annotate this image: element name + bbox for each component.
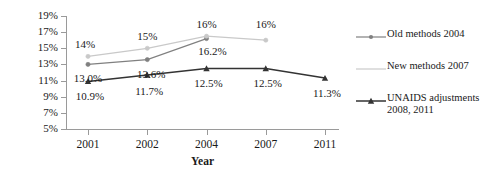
legend-label: New methods 2007: [387, 60, 469, 72]
x-axis-title: Year: [66, 155, 339, 167]
y-tick-label: 11%: [12, 75, 58, 86]
x-tick-label: 2011: [295, 138, 355, 150]
x-tick: [147, 130, 148, 135]
legend-marker-icon: [356, 93, 386, 105]
y-tick-label: 5%: [12, 123, 58, 134]
y-tick-label: 17%: [12, 26, 58, 37]
unaids-label-2007: 12.5%: [238, 77, 298, 89]
legend-marker-icon: [356, 29, 386, 41]
y-tick-label: 9%: [12, 91, 58, 102]
x-tick: [88, 130, 89, 135]
old-methods-label-2002: 13.6%: [121, 68, 181, 80]
x-tick-label: 2007: [236, 138, 296, 150]
legend-marker-icon: [356, 61, 386, 73]
legend-item-0[interactable]: Old methods 2004: [356, 28, 465, 41]
x-tick-label: 2001: [58, 138, 118, 150]
y-tick-label: 13%: [12, 58, 58, 69]
y-tick-label: 19%: [12, 10, 58, 21]
unaids-label-2004: 12.5%: [179, 77, 239, 89]
y-tick-label: 15%: [12, 42, 58, 53]
x-tick-label: 2002: [117, 138, 177, 150]
new-methods-label-2002: 15%: [117, 30, 177, 42]
y-tick-label: 7%: [12, 107, 58, 118]
x-tick: [207, 130, 208, 135]
legend-item-2[interactable]: UNAIDS adjustments 2008, 2011: [356, 92, 479, 115]
legend-label: Old methods 2004: [387, 28, 465, 40]
legend-label: UNAIDS adjustments 2008, 2011: [387, 92, 479, 115]
unaids-label-2002: 11.7%: [119, 85, 179, 97]
chart-figure: HIV prevalence 19%17%15%13%11%9%7%5% 200…: [0, 0, 487, 176]
x-tick: [266, 130, 267, 135]
new-methods-label-2007: 16%: [236, 18, 296, 30]
new-methods-label-2001: 14%: [55, 38, 115, 50]
unaids-label-2001: 10.9%: [60, 90, 120, 102]
x-tick: [325, 130, 326, 135]
x-axis-line: [66, 129, 339, 130]
legend-item-1[interactable]: New methods 2007: [356, 60, 469, 73]
new-methods-label-2004: 16%: [177, 18, 237, 30]
old-methods-label-2004: 16.2%: [183, 45, 243, 57]
old-methods-label-2001: 13.0%: [58, 72, 118, 84]
x-tick-label: 2004: [177, 138, 237, 150]
unaids-label-2011: 11.3%: [297, 87, 357, 99]
